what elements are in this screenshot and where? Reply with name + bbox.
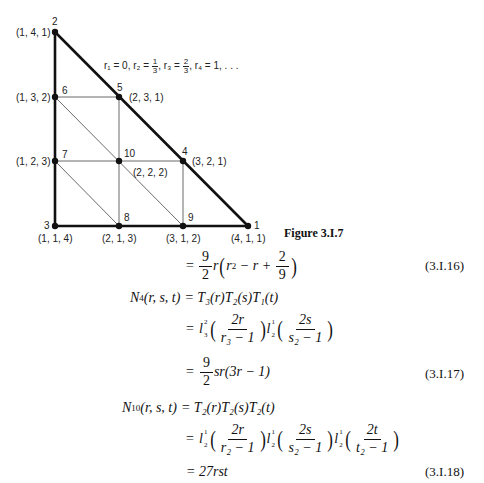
figure-caption: Figure 3.I.7 [284,226,343,241]
equation-3-I-18-line1: N10(r, s, t) = T₂(r)T₂(s)T₂(t) [122,400,275,416]
param-r1: r₁ = 0, [104,60,130,71]
node-coord-3: (1, 1, 4) [38,234,72,244]
equation-3-I-16: = 92 r ( r2 − r + 29 ) [186,246,298,286]
equation-number-17: (3.I.17) [425,366,464,382]
node-coord-10: (2, 2, 2) [133,168,167,178]
equation-3-I-17-line2: = l23 (2rr₃ − 1) l12 (2ss₂ − 1) [186,309,334,349]
node-coord-8: (2, 1, 3) [102,234,136,244]
node-number-3: 3 [44,221,50,231]
node-coord-9: (3, 1, 2) [166,234,200,244]
node-4 [180,158,186,164]
equation-3-I-18-line3: = 27rst [186,464,228,480]
node-5 [116,94,122,100]
node-number-10: 10 [124,149,135,159]
equation-3-I-17-line1: N4(r, s, t) = T₃(r)T₂(s)T₁(t) [130,290,278,306]
node-number-4: 4 [182,147,188,157]
node-10 [116,158,122,164]
param-r3: , r₃ = [158,60,180,71]
equation-number-18: (3.I.18) [425,464,464,480]
node-2 [52,29,58,35]
node-coord-7: (1, 2, 3) [16,157,50,167]
equation-number-16: (3.I.16) [425,258,464,274]
node-number-2: 2 [52,17,58,27]
equation-3-I-18-line2: = l12 (2rr₂ − 1) l12 (2ss₂ − 1) l12 (2tt… [186,419,400,459]
node-6 [52,94,58,100]
parameter-values: r₁ = 0, r₂ = 13, r₃ = 23, r₄ = 1, . . . [104,58,239,75]
param-r2: r₂ = [133,60,149,71]
node-3 [52,223,58,229]
node-7 [52,158,58,164]
node-coord-1: (4, 1, 1) [231,234,265,244]
param-r4: , r₄ = 1, . . . [189,60,238,71]
node-coord-4: (3, 2, 1) [192,157,226,167]
node-number-7: 7 [62,150,68,160]
node-9 [180,223,186,229]
node-number-5: 5 [117,83,123,93]
node-number-8: 8 [124,213,130,223]
node-coord-2: (1, 4, 1) [16,28,50,38]
equation-3-I-17-line3: = 92 sr(3r − 1) [186,354,270,390]
node-number-1: 1 [254,221,260,231]
node-number-9: 9 [188,213,194,223]
node-number-6: 6 [62,86,68,96]
node-1 [245,223,251,229]
node-coord-5: (2, 3, 1) [129,93,163,103]
tetrahedral-node-diagram [0,0,484,250]
node-coord-6: (1, 3, 2) [16,93,50,103]
node-8 [116,223,122,229]
